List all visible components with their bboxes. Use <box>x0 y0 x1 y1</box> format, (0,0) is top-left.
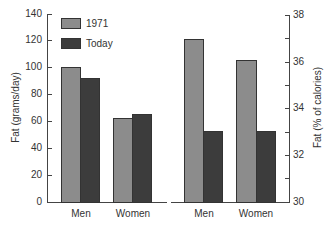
right-category-label: Women <box>231 208 281 219</box>
right-tick <box>285 178 290 179</box>
bar-women-1971-pct <box>236 60 257 203</box>
legend-label-today: Today <box>86 38 113 49</box>
left-tick-label: 60 <box>26 116 42 126</box>
left-category-label: Men <box>56 208 106 219</box>
left-tick <box>47 94 52 95</box>
left-tick-label: 120 <box>22 35 42 45</box>
right-tick <box>285 155 290 156</box>
left-tick-label: 20 <box>26 170 42 180</box>
legend-label-1971: 1971 <box>86 18 108 29</box>
right-y-axis <box>289 15 290 203</box>
right-tick-label: 38 <box>293 10 304 20</box>
bar-men-1971-pct <box>184 39 204 203</box>
legend-swatch-1971 <box>61 18 81 29</box>
left-tick <box>47 121 52 122</box>
left-tick-label: 140 <box>22 9 42 19</box>
left-tick-label: 40 <box>26 143 42 153</box>
left-tick <box>47 67 52 68</box>
right-tick-label: 32 <box>293 150 304 160</box>
right-category-label: Men <box>179 208 229 219</box>
bar-women-today-pct <box>256 131 276 203</box>
right-tick <box>285 62 290 63</box>
bar-men-today <box>80 78 100 203</box>
left-tick <box>47 14 52 15</box>
right-tick <box>285 132 290 133</box>
legend-swatch-today <box>61 38 81 49</box>
left-tick <box>47 175 52 176</box>
left-tick-label: 0 <box>30 197 42 207</box>
right-tick <box>285 108 290 109</box>
right-tick <box>285 85 290 86</box>
right-tick <box>285 15 290 16</box>
right-y-axis-label: Fat (% of calories) <box>312 63 323 153</box>
left-tick <box>47 148 52 149</box>
right-tick-label: 30 <box>293 197 304 207</box>
bar-men-today-pct <box>203 131 223 203</box>
bar-men-1971 <box>61 67 81 203</box>
right-tick-label: 34 <box>293 103 304 113</box>
right-tick <box>285 38 290 39</box>
left-category-label: Women <box>108 208 158 219</box>
left-tick-label: 80 <box>26 89 42 99</box>
left-tick <box>47 202 52 203</box>
bar-women-today <box>132 114 152 203</box>
left-y-axis-label: Fat (grams/day) <box>10 68 21 148</box>
left-tick <box>47 40 52 41</box>
left-tick-label: 100 <box>22 62 42 72</box>
bar-women-1971 <box>113 118 133 203</box>
right-tick-label: 36 <box>293 57 304 67</box>
